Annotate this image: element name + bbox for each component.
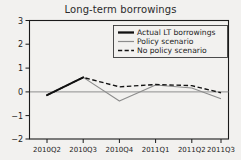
line-chart-plot: 3 2 1 0 −1 −2 2010Q2 2010Q3 2010Q4 2011Q…: [0, 0, 241, 160]
y-tick-label-0: 0: [18, 88, 23, 97]
y-tick-label-minus2: −2: [11, 135, 23, 144]
series-line-policy-scenario: [47, 77, 221, 101]
y-tick-label-minus1: −1: [11, 112, 23, 121]
series-line-actual-lt-borrowings: [47, 77, 83, 95]
legend-label-policy-scenario: Policy scenario: [137, 37, 194, 46]
legend-label-no-policy-scenario: No policy scenario: [137, 46, 207, 55]
chart-legend: Actual LT borrowings Policy scenario No …: [114, 26, 228, 58]
x-tick-label-2011q3: 2011Q3: [207, 146, 235, 154]
y-axis-ticks: [26, 21, 30, 140]
x-tick-label-2011q2: 2011Q2: [178, 146, 206, 154]
x-tick-label-2011q1: 2011Q1: [142, 146, 170, 154]
y-tick-label-2: 2: [18, 40, 23, 49]
legend-label-actual-lt-borrowings: Actual LT borrowings: [137, 28, 215, 37]
y-tick-label-3: 3: [18, 17, 23, 26]
x-axis-ticks: [47, 139, 221, 143]
x-tick-label-2010q4: 2010Q4: [106, 146, 134, 154]
series-line-no-policy-scenario: [47, 77, 221, 95]
x-tick-label-2010q3: 2010Q3: [69, 146, 97, 154]
chart-figure: Long-term borrowings 3 2 1 0 −1 −2: [0, 0, 241, 160]
y-tick-label-1: 1: [18, 64, 23, 73]
x-tick-label-2010q2: 2010Q2: [33, 146, 61, 154]
